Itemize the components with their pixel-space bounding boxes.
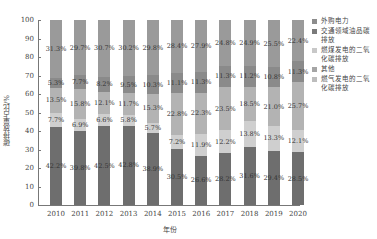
y-tick-label: 30	[20, 146, 34, 154]
data-label: 7.2%	[169, 138, 186, 146]
x-tick-label: 2019	[265, 210, 283, 218]
data-label: 28.2%	[215, 175, 236, 183]
data-label: 42.8%	[118, 161, 139, 169]
data-label: 13.3%	[263, 134, 284, 142]
legend-item: 燃煤发电的二氧化碳排放	[312, 46, 376, 64]
data-label: 30.7%	[94, 44, 115, 52]
data-label: 24.9%	[239, 39, 260, 47]
y-tick-label: 10	[20, 183, 34, 191]
data-label: 24.8%	[215, 39, 236, 47]
legend-swatch-icon	[312, 77, 317, 82]
data-label: 7.7%	[72, 78, 89, 86]
data-label: 12.2%	[215, 138, 236, 146]
data-label: 29.4%	[263, 174, 284, 182]
y-tick-label: 0	[20, 201, 34, 209]
data-label: 38.9%	[142, 165, 163, 173]
data-label: 5.7%	[145, 124, 162, 132]
data-label: 11.3%	[215, 72, 236, 80]
data-label: 11.7%	[118, 100, 139, 108]
data-label: 39.8%	[70, 164, 91, 172]
data-label: 11.3%	[191, 78, 212, 86]
data-label: 31.3%	[46, 45, 67, 53]
y-tick-label: 20	[20, 164, 34, 172]
x-tick-label: 2014	[144, 210, 162, 218]
data-label: 10.3%	[142, 81, 163, 89]
legend-label: 外购电力	[321, 17, 376, 26]
data-label: 18.5%	[239, 100, 260, 108]
data-label: 13.5%	[46, 96, 67, 104]
data-label: 25.5%	[263, 40, 284, 48]
data-label: 9.5%	[120, 81, 137, 89]
data-label: 6.6%	[96, 116, 113, 124]
legend-item: 交通领域油品碳排放	[312, 27, 376, 45]
data-label: 10.8%	[263, 73, 284, 81]
data-label: 28.5%	[288, 175, 309, 183]
y-tick-label: 80	[20, 53, 34, 61]
y-axis-label: 碳排放量占比/%	[2, 95, 16, 146]
x-axis	[38, 205, 300, 206]
data-label: 11.3%	[288, 68, 309, 76]
y-tick-label: 70	[20, 72, 34, 80]
data-label: 15.3%	[142, 104, 163, 112]
x-tick-label: 2018	[241, 210, 259, 218]
data-label: 30.5%	[167, 173, 188, 181]
x-tick-label: 2011	[71, 210, 89, 218]
y-tick-label: 90	[20, 35, 34, 43]
y-tick-mark	[38, 205, 41, 206]
data-label: 21.0%	[263, 103, 284, 111]
data-label: 12.1%	[94, 99, 115, 107]
legend-swatch-icon	[312, 67, 317, 72]
x-tick-label: 2016	[192, 210, 210, 218]
y-tick-label: 100	[20, 16, 34, 24]
data-label: 22.4%	[288, 37, 309, 45]
data-label: 29.8%	[142, 44, 163, 52]
data-label: 7.7%	[48, 116, 65, 124]
data-label: 13.8%	[239, 130, 260, 138]
x-tick-label: 2015	[168, 210, 186, 218]
legend-item: 其他	[312, 65, 376, 74]
x-tick-label: 2012	[95, 210, 113, 218]
plot-area: 42.2%7.7%13.5%5.3%31.3%39.8%6.9%15.8%7.7…	[38, 20, 300, 205]
data-label: 11.9%	[191, 141, 212, 149]
data-label: 5.8%	[120, 116, 137, 124]
data-label: 26.6%	[191, 176, 212, 184]
legend-swatch-icon	[312, 29, 317, 34]
data-label: 11.2%	[239, 72, 260, 80]
legend-label: 其他	[321, 65, 376, 74]
legend-label: 交通领域油品碳排放	[321, 27, 376, 45]
data-label: 5.3%	[48, 79, 65, 87]
data-label: 31.6%	[239, 172, 260, 180]
legend-swatch-icon	[312, 19, 317, 24]
data-label: 22.8%	[167, 110, 188, 118]
data-label: 22.3%	[191, 109, 212, 117]
data-label: 15.8%	[70, 100, 91, 108]
x-tick-label: 2013	[120, 210, 138, 218]
data-label: 23.5%	[215, 105, 236, 113]
legend-label: 燃煤发电的二氧化碳排放	[321, 46, 376, 64]
legend: 外购电力交通领域油品碳排放燃煤发电的二氧化碳排放其他燃气发电的二氧化碳排放	[312, 17, 376, 94]
data-label: 6.9%	[72, 121, 89, 129]
data-label: 29.7%	[70, 44, 91, 52]
y-tick-label: 60	[20, 90, 34, 98]
legend-item: 燃气发电的二氧化碳排放	[312, 75, 376, 93]
data-label: 42.2%	[46, 162, 67, 170]
data-label: 27.9%	[191, 42, 212, 50]
x-tick-label: 2020	[289, 210, 307, 218]
y-tick-label: 40	[20, 127, 34, 135]
data-label: 30.2%	[118, 44, 139, 52]
data-label: 8.2%	[96, 80, 113, 88]
x-axis-label: 年份	[163, 224, 177, 234]
x-tick-label: 2017	[216, 210, 234, 218]
y-tick-label: 50	[20, 109, 34, 117]
data-label: 28.4%	[167, 42, 188, 50]
legend-label: 燃气发电的二氧化碳排放	[321, 75, 376, 93]
data-label: 11.1%	[167, 79, 188, 87]
x-tick-label: 2010	[47, 210, 65, 218]
data-label: 12.1%	[288, 137, 309, 145]
data-label: 42.5%	[94, 162, 115, 170]
legend-swatch-icon	[312, 48, 317, 53]
legend-item: 外购电力	[312, 17, 376, 26]
data-label: 25.7%	[288, 102, 309, 110]
